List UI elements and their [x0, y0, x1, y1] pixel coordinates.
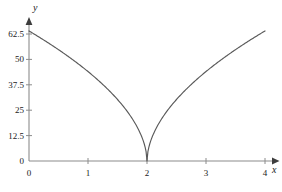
- y-tick-label: 0: [20, 157, 25, 166]
- x-tick-label: 4: [263, 169, 268, 178]
- y-axis-arrowhead: [26, 17, 33, 25]
- axes-group: [26, 17, 280, 164]
- y-tick-label: 25: [15, 106, 24, 115]
- y-tick-label: 50: [15, 55, 24, 64]
- x-tick-label: 2: [145, 169, 150, 178]
- y-tick-label: 12.5: [8, 131, 24, 140]
- x-axis-label: x: [272, 165, 276, 175]
- y-tick-label: 62.5: [8, 30, 24, 39]
- y-tick-label: 37.5: [8, 80, 24, 89]
- x-tick-label: 1: [86, 169, 91, 178]
- data-curve: [29, 31, 265, 161]
- chart-figure: 01234 012.52537.55062.5 x y: [0, 0, 282, 192]
- plot-area: [0, 0, 282, 192]
- x-tick-label: 3: [204, 169, 209, 178]
- y-axis-label: y: [33, 3, 37, 13]
- x-tick-label: 0: [27, 169, 32, 178]
